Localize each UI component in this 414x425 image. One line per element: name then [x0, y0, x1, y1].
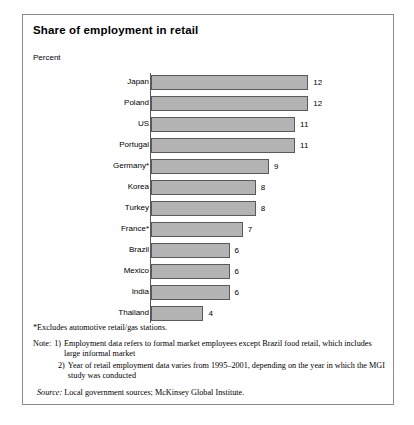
bar-value-label: 12 — [313, 99, 322, 108]
category-label: Korea — [128, 182, 149, 191]
bar-track: 6 — [151, 264, 389, 279]
exhibit-frame: Share of employment in retail Percent Ja… — [22, 14, 394, 405]
bar — [151, 306, 203, 321]
bar-value-label: 11 — [300, 120, 308, 129]
bar-value-label: 8 — [261, 183, 265, 192]
chart-row: India6 — [23, 283, 393, 304]
note-item-1: Note: 1) Employment data refers to forma… — [33, 339, 385, 360]
note-number: 1) — [54, 339, 64, 360]
bar-track: 6 — [151, 243, 389, 258]
bar — [151, 243, 230, 258]
category-label: Brazil — [129, 245, 149, 254]
source-text: Local government sources; McKinsey Globa… — [64, 388, 244, 397]
bar-track: 11 — [151, 138, 389, 153]
bar-track: 6 — [151, 285, 389, 300]
chart-row: France*7 — [23, 220, 393, 241]
category-label: US — [138, 119, 149, 128]
category-label: France* — [121, 224, 149, 233]
category-label: India — [132, 287, 149, 296]
chart-row: US11 — [23, 115, 393, 136]
category-label: Thailand — [118, 308, 149, 317]
category-label: Poland — [124, 98, 149, 107]
note-label: Note: — [33, 339, 54, 360]
bar-value-label: 6 — [235, 246, 239, 255]
chart-row: Thailand4 — [23, 304, 393, 325]
chart-row: Germany*9 — [23, 157, 393, 178]
note-text: Employment data refers to formal market … — [64, 339, 385, 360]
chart-row: Portugal11 — [23, 136, 393, 157]
category-label: Turkey — [125, 203, 149, 212]
chart-row: Turkey8 — [23, 199, 393, 220]
chart-row: Mexico6 — [23, 262, 393, 283]
bar — [151, 96, 308, 111]
bar — [151, 117, 295, 132]
bar-track: 11 — [151, 117, 389, 132]
bar — [151, 180, 256, 195]
bar-value-label: 11 — [300, 141, 308, 150]
chart-row: Poland12 — [23, 94, 393, 115]
bar-track: 8 — [151, 180, 389, 195]
axis-unit-label: Percent — [33, 53, 61, 62]
bar-value-label: 4 — [208, 309, 212, 318]
bar-track: 12 — [151, 75, 389, 90]
bar-track: 8 — [151, 201, 389, 216]
chart-row: Korea8 — [23, 178, 393, 199]
note-text: Year of retail employment data varies fr… — [68, 361, 385, 382]
bar-value-label: 6 — [235, 267, 239, 276]
bar-track: 7 — [151, 222, 389, 237]
category-label: Japan — [127, 77, 149, 86]
source-line: Source: Local government sources; McKins… — [33, 388, 385, 399]
bar-chart-plot: Japan12Poland12US11Portugal11Germany*9Ko… — [23, 73, 393, 323]
bar-value-label: 7 — [248, 225, 252, 234]
note-item-2: 2) Year of retail employment data varies… — [33, 361, 385, 382]
bar-value-label: 8 — [261, 204, 265, 213]
footnotes-block: *Excludes automotive retail/gas stations… — [33, 323, 385, 398]
bar-track: 12 — [151, 96, 389, 111]
bar — [151, 201, 256, 216]
chart-row: Brazil6 — [23, 241, 393, 262]
asterisk-footnote: *Excludes automotive retail/gas stations… — [33, 323, 385, 334]
bar — [151, 159, 269, 174]
bar-track: 9 — [151, 159, 389, 174]
bar — [151, 285, 230, 300]
category-label: Portugal — [119, 140, 149, 149]
bar — [151, 264, 230, 279]
note-number: 2) — [58, 361, 68, 382]
bar — [151, 222, 243, 237]
category-label: Germany* — [113, 161, 149, 170]
bar-value-label: 6 — [235, 288, 239, 297]
category-label: Mexico — [124, 266, 149, 275]
bar — [151, 75, 308, 90]
bar-value-label: 12 — [313, 78, 322, 87]
bar-track: 4 — [151, 306, 389, 321]
source-label: Source: — [37, 388, 62, 397]
chart-row: Japan12 — [23, 73, 393, 94]
bar — [151, 138, 295, 153]
page-title: Share of employment in retail — [33, 24, 198, 36]
bar-value-label: 9 — [274, 162, 278, 171]
